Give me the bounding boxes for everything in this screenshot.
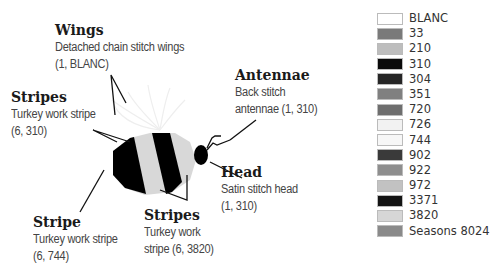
- callout-head: Head Satin stitch head (1, 310): [221, 163, 308, 215]
- legend-label: 720: [409, 102, 431, 117]
- callout-desc: Satin stitch head: [221, 181, 298, 198]
- callout-stripe-bottom: Stripe Turkey work stripe (6, 744): [33, 213, 129, 264]
- callout-desc: stripe (6, 3820): [144, 241, 214, 258]
- callout-title: Stripes: [144, 206, 223, 224]
- legend-label: 351: [409, 87, 431, 102]
- color-swatch: [377, 73, 403, 85]
- legend-item: 351: [377, 87, 490, 102]
- legend-label: 744: [409, 133, 431, 148]
- color-swatch: [377, 149, 403, 161]
- legend-label: 972: [409, 178, 431, 193]
- legend-label: 310: [409, 57, 431, 72]
- callout-desc: Back stitch: [235, 84, 317, 101]
- callout-desc: Turkey work stripe: [11, 106, 96, 123]
- callout-title: Head: [221, 163, 308, 181]
- color-swatch: [377, 225, 403, 237]
- callout-stripes-bottom: Stripes Turkey work stripe (6, 3820): [144, 206, 223, 258]
- callout-desc: (6, 310): [11, 123, 96, 140]
- legend-label: 33: [409, 26, 424, 41]
- legend-item: 33: [377, 26, 490, 41]
- callout-title: Stripes: [11, 88, 107, 106]
- wings: [112, 85, 185, 130]
- legend-label: 3820: [409, 208, 438, 223]
- legend-item: 3371: [377, 193, 490, 208]
- color-swatch: [377, 13, 403, 25]
- legend-item: 744: [377, 133, 490, 148]
- thread-color-legend: BLANC33210310304351720726744902922972337…: [377, 11, 490, 239]
- callout-desc: (1, 310): [221, 198, 298, 215]
- bee-head: [194, 145, 208, 165]
- callout-stripes-top: Stripes Turkey work stripe (6, 310): [11, 88, 107, 140]
- callout-title: Wings: [55, 21, 202, 39]
- callout-desc: antennae (1, 310): [235, 101, 317, 118]
- color-swatch: [377, 164, 403, 176]
- callout-desc: (6, 744): [33, 248, 118, 264]
- legend-item: 720: [377, 102, 490, 117]
- legend-item: Seasons 8024: [377, 224, 490, 239]
- color-swatch: [377, 119, 403, 131]
- color-swatch: [377, 134, 403, 146]
- color-swatch: [377, 180, 403, 192]
- legend-item: 304: [377, 72, 490, 87]
- legend-item: 3820: [377, 208, 490, 223]
- legend-label: 304: [409, 72, 431, 87]
- legend-item: 922: [377, 163, 490, 178]
- color-swatch: [377, 88, 403, 100]
- legend-item: 210: [377, 41, 490, 56]
- color-swatch: [377, 104, 403, 116]
- legend-item: 972: [377, 178, 490, 193]
- color-swatch: [377, 58, 403, 70]
- callout-wings: Wings Detached chain stitch wings (1, BL…: [55, 21, 202, 73]
- legend-label: 726: [409, 117, 431, 132]
- legend-label: 3371: [409, 193, 438, 208]
- legend-label: 922: [409, 163, 431, 178]
- legend-label: Seasons 8024: [409, 224, 490, 239]
- legend-item: 310: [377, 57, 490, 72]
- color-swatch: [377, 210, 403, 222]
- callout-desc: (1, BLANC): [55, 56, 184, 73]
- callout-antennae: Antennae Back stitch antennae (1, 310): [235, 66, 329, 118]
- legend-item: 726: [377, 117, 490, 132]
- callout-desc: Detached chain stitch wings: [55, 39, 184, 56]
- bee-body: [113, 133, 196, 195]
- callout-desc: Turkey work stripe: [33, 231, 118, 248]
- antennae: [207, 136, 230, 150]
- color-swatch: [377, 28, 403, 40]
- callout-title: Stripe: [33, 213, 129, 231]
- callout-title: Antennae: [235, 66, 329, 84]
- color-swatch: [377, 195, 403, 207]
- color-swatch: [377, 43, 403, 55]
- legend-label: 210: [409, 41, 431, 56]
- legend-item: BLANC: [377, 11, 490, 26]
- legend-label: 902: [409, 148, 431, 163]
- legend-item: 902: [377, 148, 490, 163]
- callout-desc: Turkey work: [144, 224, 214, 241]
- legend-label: BLANC: [409, 11, 448, 26]
